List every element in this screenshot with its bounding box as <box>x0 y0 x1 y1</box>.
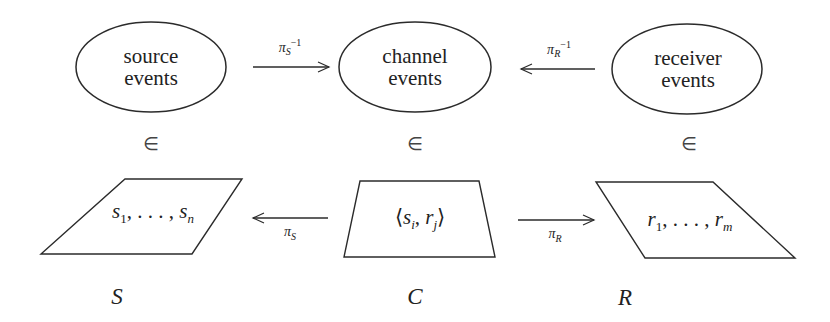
source-label-line1: source <box>124 45 179 67</box>
set-S-content: s1, . . . , sn <box>112 200 194 226</box>
channel-label-line2: events <box>382 67 447 89</box>
source-events-label: source events <box>124 45 179 89</box>
pi-S-label: πS <box>284 225 296 242</box>
set-S-name: S <box>111 285 123 309</box>
channel-events-label: channel events <box>382 45 447 89</box>
set-R-content: r1, . . . , rm <box>648 208 733 234</box>
element-of-symbol-channel: ∈ <box>407 135 423 154</box>
pi-R-label: πR <box>548 227 561 244</box>
set-R-name: R <box>618 286 632 310</box>
source-label-line2: events <box>124 67 179 89</box>
channel-label-line1: channel <box>382 45 447 67</box>
set-C-name: C <box>407 285 422 309</box>
receiver-label-line1: receiver <box>654 47 722 69</box>
receiver-label-line2: events <box>654 69 722 91</box>
set-C-content: ⟨si, rj⟩ <box>395 206 445 232</box>
pi-S-inverse-label: πS−1 <box>279 38 302 58</box>
pi-R-inverse-label: πR−1 <box>547 40 571 60</box>
element-of-symbol-receiver: ∈ <box>681 135 697 154</box>
receiver-events-label: receiver events <box>654 47 722 91</box>
element-of-symbol-source: ∈ <box>143 135 159 154</box>
